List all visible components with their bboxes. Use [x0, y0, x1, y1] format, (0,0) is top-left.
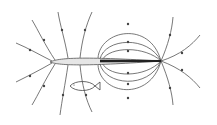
electric-field-diagram	[0, 0, 217, 125]
electric-fish	[50, 58, 161, 65]
small-fish	[70, 82, 100, 91]
